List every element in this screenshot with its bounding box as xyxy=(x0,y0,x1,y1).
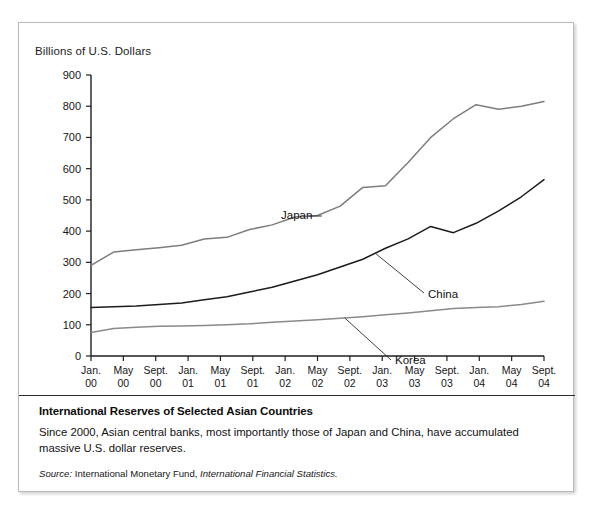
x-tick-label-month: Jan. xyxy=(275,364,295,376)
x-tick-label-month: May xyxy=(308,364,329,376)
x-tick-label-month: Sept. xyxy=(532,364,557,376)
x-tick-label-month: Jan. xyxy=(372,364,392,376)
source-line: Source: International Monetary Fund, Int… xyxy=(39,468,555,479)
source-label: Source: xyxy=(39,468,72,479)
series-label-korea: Korea xyxy=(395,354,426,366)
x-tick-label-month: Sept. xyxy=(241,364,266,376)
x-tick-label-month: May xyxy=(211,364,232,376)
series-label-japan: Japan xyxy=(281,209,312,221)
series-line-korea xyxy=(91,301,544,332)
x-tick-label-year: 01 xyxy=(182,377,194,389)
y-tick-label: 500 xyxy=(63,194,81,206)
y-tick-label: 100 xyxy=(63,319,81,331)
x-tick-label-month: Jan. xyxy=(178,364,198,376)
y-tick-label: 400 xyxy=(63,225,81,237)
x-tick-label-year: 04 xyxy=(473,377,485,389)
y-tick-label: 0 xyxy=(75,350,81,362)
y-tick-label: 800 xyxy=(63,100,81,112)
x-axis-ticks: Jan.00May00Sept.00Jan.01May01Sept.01Jan.… xyxy=(81,356,556,389)
x-tick-label-year: 02 xyxy=(312,377,324,389)
series-line-china xyxy=(91,180,544,308)
figure-frame: Billions of U.S. Dollars 010020030040050… xyxy=(18,22,574,492)
x-tick-label-year: 01 xyxy=(247,377,259,389)
x-tick-label-year: 01 xyxy=(215,377,227,389)
series-lines xyxy=(91,102,544,333)
x-tick-label-year: 03 xyxy=(376,377,388,389)
y-tick-label: 300 xyxy=(63,256,81,268)
x-tick-label-year: 00 xyxy=(150,377,162,389)
x-tick-label-year: 04 xyxy=(538,377,550,389)
chart-plot: 0100200300400500600700800900 Jan.00May00… xyxy=(19,23,575,395)
source-publication: International Financial Statistics. xyxy=(200,468,338,479)
x-tick-label-year: 00 xyxy=(85,377,97,389)
x-tick-label-year: 02 xyxy=(279,377,291,389)
x-tick-label-year: 02 xyxy=(344,377,356,389)
x-tick-label-year: 04 xyxy=(506,377,518,389)
y-tick-label: 200 xyxy=(63,288,81,300)
x-tick-label-month: May xyxy=(502,364,523,376)
y-tick-label: 900 xyxy=(63,69,81,81)
y-tick-label: 700 xyxy=(63,131,81,143)
series-line-japan xyxy=(91,102,544,266)
x-tick-label-month: Sept. xyxy=(435,364,460,376)
caption-block: International Reserves of Selected Asian… xyxy=(19,395,575,493)
x-tick-label-month: Sept. xyxy=(143,364,168,376)
y-axis-ticks: 0100200300400500600700800900 xyxy=(63,69,91,362)
series-label-china: China xyxy=(428,288,459,300)
caption-title: International Reserves of Selected Asian… xyxy=(39,405,555,417)
x-tick-label-month: Jan. xyxy=(81,364,101,376)
x-tick-label-month: Sept. xyxy=(338,364,363,376)
chart-area: Billions of U.S. Dollars 010020030040050… xyxy=(19,23,575,395)
series-annotations: JapanChinaKorea xyxy=(281,209,459,366)
x-tick-label-month: May xyxy=(113,364,134,376)
x-tick-label-month: Jan. xyxy=(469,364,489,376)
x-tick-label-year: 03 xyxy=(441,377,453,389)
x-tick-label-year: 03 xyxy=(409,377,421,389)
caption-body: Since 2000, Asian central banks, most im… xyxy=(39,424,539,457)
y-tick-label: 600 xyxy=(63,163,81,175)
source-organization: International Monetary Fund, xyxy=(75,468,198,479)
x-tick-label-year: 00 xyxy=(118,377,130,389)
